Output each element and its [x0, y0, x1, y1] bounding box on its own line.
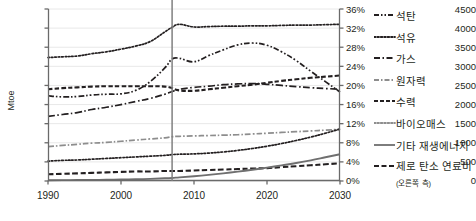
- x-tick: 1990: [25, 191, 71, 201]
- y-axis-left-label: Mtoe: [7, 81, 16, 121]
- legend-swatch-gas: [374, 49, 396, 71]
- legend-swatch-coal: [374, 6, 396, 28]
- legend-swatch-hydro: [374, 92, 396, 114]
- legend-swatch-oil: [374, 28, 396, 50]
- legend-label: 석유: [396, 28, 416, 44]
- x-tick: 2020: [244, 191, 290, 201]
- chart-figure: 4500 4000 3500 3000 2500 2000 1500 1000 …: [0, 0, 476, 221]
- legend-label: 기타 재생에너지: [396, 136, 469, 152]
- series-line: [48, 24, 340, 57]
- y-tick-right: 0%: [346, 176, 376, 186]
- y-tick-right: 16%: [346, 100, 376, 110]
- y-tick-right: 8%: [346, 138, 376, 148]
- y-tick-right: 36%: [346, 5, 376, 15]
- legend-item-hydro[interactable]: 수력: [374, 92, 476, 114]
- y-tick-right: 32%: [346, 24, 376, 34]
- y-tick-right: 12%: [346, 119, 376, 129]
- legend-label: 석탄: [396, 6, 416, 22]
- y-tick-right: 4%: [346, 157, 376, 167]
- y-tick-right: 20%: [346, 81, 376, 91]
- y-tick-right: 28%: [346, 43, 376, 53]
- x-tick: 2000: [98, 191, 144, 201]
- legend-label: 원자력: [396, 71, 426, 87]
- series-line: [48, 84, 340, 117]
- legend-label: 가스: [396, 49, 416, 65]
- legend-label: 수력: [396, 92, 416, 108]
- legend-swatch-nuclear: [374, 71, 396, 93]
- series-line: [48, 43, 340, 97]
- legend-item-gas[interactable]: 가스: [374, 49, 476, 71]
- y-tick-right: 24%: [346, 62, 376, 72]
- legend-label-sub: (오른쪽 측): [396, 179, 431, 188]
- x-tick: 2030: [317, 191, 363, 201]
- legend-label: 제로 탄소 연료비: [396, 161, 472, 172]
- legend-item-biomass[interactable]: 바이오매스: [374, 114, 476, 136]
- legend: 석탄 석유 가스 원자력 수력: [374, 6, 476, 185]
- series-canvas: [48, 9, 340, 181]
- legend-swatch-zero-carbon-fuel: [374, 157, 396, 179]
- series-line: [48, 129, 340, 161]
- legend-item-nuclear[interactable]: 원자력: [374, 71, 476, 93]
- series-line: [48, 129, 340, 146]
- series-line: [48, 76, 340, 91]
- x-tick: 2010: [171, 191, 217, 201]
- legend-item-oil[interactable]: 석유: [374, 28, 476, 50]
- legend-item-zero-carbon-fuel[interactable]: 제로 탄소 연료비 (오른쪽 측): [374, 157, 476, 185]
- legend-label: 바이오매스: [396, 114, 446, 130]
- legend-swatch-other-renewables: [374, 136, 396, 158]
- series-line: [48, 163, 340, 174]
- plot-area: [48, 9, 340, 181]
- legend-swatch-biomass: [374, 114, 396, 136]
- legend-item-other-renewables[interactable]: 기타 재생에너지: [374, 136, 476, 158]
- legend-item-coal[interactable]: 석탄: [374, 6, 476, 28]
